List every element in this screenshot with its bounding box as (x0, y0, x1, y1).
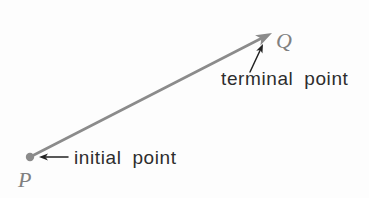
initial-point-dot (26, 153, 34, 161)
initial-point-annotation: initial point (74, 147, 177, 168)
vector-pq-shaft (30, 38, 262, 157)
terminal-point-annotation: terminal point (221, 68, 349, 89)
point-label-p: P (17, 167, 31, 192)
vector-diagram-canvas: P Q initial point terminal point (0, 0, 369, 198)
vector-pq-arrowhead-icon (255, 28, 275, 46)
vector-pq-figure: P Q initial point terminal point (0, 0, 369, 198)
point-label-q: Q (276, 28, 292, 53)
